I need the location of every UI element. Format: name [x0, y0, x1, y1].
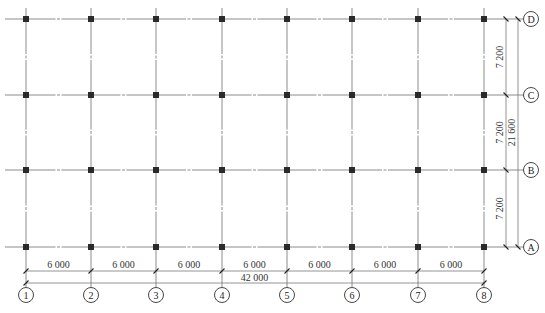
column-6B	[349, 167, 355, 173]
dimension-label: 6 000	[112, 259, 135, 270]
column-7A	[415, 244, 421, 250]
column-grid-drawing: 6 0006 0006 0006 0006 0006 0006 00042 00…	[0, 0, 545, 313]
column-7D	[415, 16, 421, 22]
axis-label-7: 7	[416, 290, 421, 301]
dimension-label-vertical: 7 200	[494, 46, 505, 69]
column-4A	[219, 244, 225, 250]
column-3C	[153, 92, 159, 98]
column-7B	[415, 167, 421, 173]
column-8B	[481, 167, 487, 173]
column-8D	[481, 16, 487, 22]
column-8A	[481, 244, 487, 250]
dimension-label: 6 000	[374, 259, 397, 270]
column-5D	[284, 16, 290, 22]
column-1C	[23, 92, 29, 98]
axis-label-4: 4	[220, 290, 225, 301]
axis-label-3: 3	[154, 290, 159, 301]
column-5C	[284, 92, 290, 98]
grid-lines	[5, 8, 526, 288]
axis-label-6: 6	[350, 290, 355, 301]
column-6A	[349, 244, 355, 250]
axis-label-B: B	[528, 165, 535, 176]
column-2B	[88, 167, 94, 173]
dimension-label: 6 000	[243, 259, 266, 270]
column-5B	[284, 167, 290, 173]
column-4B	[219, 167, 225, 173]
dimension-label: 6 000	[47, 259, 70, 270]
axis-label-1: 1	[24, 290, 29, 301]
column-2C	[88, 92, 94, 98]
column-2A	[88, 244, 94, 250]
axis-label-5: 5	[285, 290, 290, 301]
columns	[23, 16, 487, 250]
column-5A	[284, 244, 290, 250]
column-3D	[153, 16, 159, 22]
column-1D	[23, 16, 29, 22]
dimension-lines: 6 0006 0006 0006 0006 0006 0006 00042 00…	[24, 17, 521, 286]
dimension-total-label: 42 000	[241, 272, 269, 283]
axis-label-A: A	[527, 242, 535, 253]
column-3A	[153, 244, 159, 250]
column-1A	[23, 244, 29, 250]
axis-label-2: 2	[89, 290, 94, 301]
dimension-label-vertical: 7 200	[494, 121, 505, 144]
axis-label-8: 8	[482, 290, 487, 301]
column-2D	[88, 16, 94, 22]
column-4C	[219, 92, 225, 98]
column-3B	[153, 167, 159, 173]
dimension-label: 6 000	[308, 259, 331, 270]
column-1B	[23, 167, 29, 173]
axis-label-C: C	[528, 90, 535, 101]
column-4D	[219, 16, 225, 22]
column-6D	[349, 16, 355, 22]
column-7C	[415, 92, 421, 98]
column-8C	[481, 92, 487, 98]
dimension-label: 6 000	[440, 259, 463, 270]
dimension-label: 6 000	[178, 259, 201, 270]
dimension-total-label-vertical: 21 600	[506, 119, 517, 147]
dimension-label-vertical: 7 200	[494, 197, 505, 220]
axis-label-D: D	[527, 14, 534, 25]
column-6C	[349, 92, 355, 98]
